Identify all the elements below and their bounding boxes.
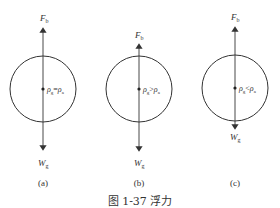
- center-dot: [233, 86, 236, 89]
- panel-a: Fb ρg=ρa Wg (a): [10, 13, 76, 188]
- weight-label: Wg: [134, 158, 145, 169]
- density-relation: ρg=ρa: [46, 85, 65, 95]
- buoyancy-label: Fb: [230, 12, 240, 23]
- density-relation: ρg<ρa: [238, 84, 257, 94]
- weight-label: Wg: [38, 158, 49, 169]
- buoyancy-diagram: Fb ρg=ρa Wg (a) Fb ρg>ρa Wg (b) Fb ρg<ρa…: [0, 0, 280, 208]
- density-relation: ρg>ρa: [142, 85, 161, 95]
- panel-label: (b): [134, 178, 145, 188]
- panel-c: Fb ρg<ρa Wg (c): [202, 12, 268, 188]
- panel-label: (c): [230, 178, 240, 188]
- buoyancy-label: Fb: [39, 13, 49, 24]
- panel-b: Fb ρg>ρa Wg (b): [106, 30, 172, 188]
- center-dot: [41, 87, 44, 90]
- panel-label: (a): [38, 178, 48, 188]
- buoyancy-label: Fb: [134, 30, 144, 41]
- figure-caption: 图 1-37 浮力: [0, 192, 280, 208]
- weight-label: Wg: [230, 132, 241, 143]
- center-dot: [137, 87, 140, 90]
